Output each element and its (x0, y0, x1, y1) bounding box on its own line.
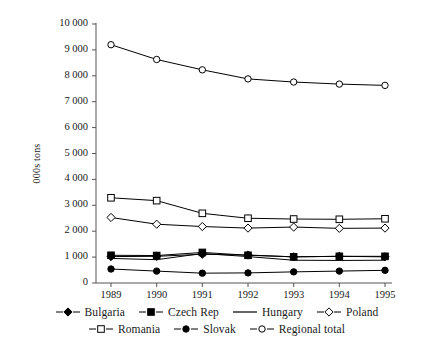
data-point-filled-square (108, 252, 115, 259)
legend-item-hungary[interactable]: Hungary (232, 306, 303, 318)
x-tick-label: 1991 (179, 289, 225, 300)
data-point-open-circle (199, 67, 205, 73)
data-point-filled-square (245, 252, 252, 259)
data-point-open-diamond (325, 307, 333, 315)
data-point-filled-square (153, 252, 160, 259)
data-point-open-square (153, 197, 160, 204)
data-point-filled-square (336, 253, 343, 260)
legend-swatch-open-square-icon (88, 323, 114, 335)
data-point-open-circle (153, 56, 159, 62)
data-point-filled-circle (108, 266, 114, 272)
y-tick-label: 7 000 (32, 95, 88, 106)
series-romania (108, 194, 389, 222)
data-point-filled-square (382, 253, 389, 260)
data-point-filled-circle (382, 267, 388, 273)
axes (96, 23, 392, 283)
legend-item-bulgaria[interactable]: Bulgaria (55, 306, 125, 318)
data-point-open-square (245, 215, 252, 222)
data-point-open-square (336, 216, 343, 223)
data-point-filled-square (290, 254, 297, 261)
y-tick-label: 10 000 (32, 17, 88, 28)
y-tick-label: 5 000 (32, 147, 88, 158)
y-tick-label: 4 000 (32, 172, 88, 183)
y-tick-label: 0 (32, 276, 88, 287)
legend-item-poland[interactable]: Poland (316, 306, 379, 318)
data-point-open-circle (108, 42, 114, 48)
data-point-filled-square (199, 249, 206, 256)
data-point-filled-circle (153, 268, 159, 274)
legend-row: RomaniaSlovakRegional total (0, 320, 433, 337)
y-tick-label: 8 000 (32, 69, 88, 80)
legend-swatch-filled-square-icon (138, 306, 164, 318)
data-point-open-diamond (381, 224, 389, 232)
data-point-open-circle (382, 82, 388, 88)
x-tick-label: 1989 (88, 289, 134, 300)
y-tick-label: 9 000 (32, 43, 88, 54)
data-point-filled-circle (336, 268, 342, 274)
data-point-open-square (290, 216, 297, 223)
data-point-filled-circle (290, 269, 296, 275)
legend-label: Slovak (203, 323, 236, 335)
data-point-open-diamond (107, 213, 115, 221)
legend-label: Poland (346, 306, 379, 318)
data-point-open-square (199, 210, 206, 217)
x-tick-label: 1990 (134, 289, 180, 300)
legend-swatch-filled-diamond-icon (55, 306, 81, 318)
legend-swatch-open-diamond-icon (316, 306, 342, 318)
legend-row: BulgariaCzech RepHungaryPoland (0, 303, 433, 320)
legend-item-czech-rep[interactable]: Czech Rep (138, 306, 219, 318)
series-slovak (108, 266, 388, 277)
chart-legend: BulgariaCzech RepHungaryPolandRomaniaSlo… (0, 303, 433, 337)
x-tick-label: 1993 (271, 289, 317, 300)
y-tick-label: 2 000 (32, 224, 88, 235)
legend-label: Bulgaria (85, 306, 125, 318)
legend-item-slovak[interactable]: Slovak (173, 323, 236, 335)
legend-swatch-none-icon (232, 306, 258, 318)
data-point-filled-diamond (63, 307, 71, 315)
x-tick-label: 1994 (316, 289, 362, 300)
y-tick-label: 3 000 (32, 198, 88, 209)
data-point-open-circle (245, 76, 251, 82)
series-regional-total (108, 42, 388, 89)
data-point-open-circle (290, 79, 296, 85)
legend-label: Romania (118, 323, 160, 335)
data-point-open-circle (336, 81, 342, 87)
data-point-open-square (382, 215, 389, 222)
legend-label: Czech Rep (168, 306, 219, 318)
data-point-open-circle (259, 325, 265, 331)
x-tick-label: 1995 (362, 289, 408, 300)
data-point-open-diamond (335, 224, 343, 232)
data-point-filled-square (148, 308, 155, 315)
data-point-open-square (98, 325, 105, 332)
data-point-open-diamond (198, 222, 206, 230)
legend-label: Hungary (262, 306, 303, 318)
data-point-filled-circle (245, 270, 251, 276)
data-point-filled-circle (199, 270, 205, 276)
line-chart-figure: 000s tons 01 0002 0003 0004 0005 0006 00… (0, 0, 433, 356)
x-tick-label: 1992 (225, 289, 271, 300)
legend-swatch-open-circle-icon (249, 323, 275, 335)
data-point-open-diamond (153, 220, 161, 228)
legend-item-regional-total[interactable]: Regional total (249, 323, 345, 335)
y-tick-label: 1 000 (32, 250, 88, 261)
y-tick-label: 6 000 (32, 121, 88, 132)
legend-swatch-filled-circle-icon (173, 323, 199, 335)
legend-label: Regional total (279, 323, 345, 335)
data-point-filled-circle (183, 325, 189, 331)
legend-item-romania[interactable]: Romania (88, 323, 160, 335)
data-point-open-diamond (290, 223, 298, 231)
data-point-open-diamond (244, 224, 252, 232)
data-point-open-square (108, 194, 115, 201)
